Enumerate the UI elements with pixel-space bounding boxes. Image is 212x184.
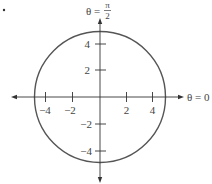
y-tick-label: −2 [80, 118, 92, 130]
svg-text:θ =: θ = [86, 5, 100, 17]
right-arrow-icon [178, 95, 184, 99]
x-tick-label: 2 [124, 104, 130, 116]
polar-plot: −4 −2 2 4 4 2 −2 −4 θ = 0 θ = π 2 [0, 0, 212, 184]
fraction-numerator: π [105, 0, 110, 10]
x-tick-label: −4 [39, 104, 51, 116]
polar-axis-label: θ = 0 [187, 91, 210, 103]
down-arrow-icon [98, 177, 102, 183]
y-tick-label: −4 [80, 145, 92, 157]
left-arrow-icon [11, 95, 17, 99]
x-tick-label: 4 [150, 104, 156, 116]
y-ticks [95, 44, 106, 151]
vertical-axis-label: θ = π 2 [86, 0, 111, 21]
y-tick-label: 4 [85, 38, 91, 50]
up-arrow-icon [98, 18, 102, 24]
x-tick-label: −2 [64, 104, 76, 116]
y-tick-label: 2 [85, 64, 91, 76]
figure-marker-dot [3, 9, 5, 11]
fraction-denominator: 2 [105, 11, 110, 21]
